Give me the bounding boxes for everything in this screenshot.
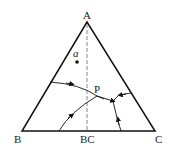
boundary-curve-bottom <box>59 96 97 131</box>
point-p-label: P <box>94 83 100 95</box>
midpoint-bc-label: BC <box>80 133 95 145</box>
boundary-curve-to-junction <box>97 96 113 101</box>
vertex-a-label: A <box>83 9 91 21</box>
boundary-curve-right <box>113 93 131 101</box>
arrow-bottom-curve <box>68 115 72 118</box>
point-a-dot <box>75 60 79 64</box>
triangle-outline <box>22 22 155 131</box>
boundary-curve-down <box>113 101 121 131</box>
arrow-down-curve <box>118 119 119 125</box>
point-a-label: a <box>73 47 79 59</box>
vertex-b-label: B <box>14 133 21 145</box>
ternary-diagram: A B C BC a P <box>0 0 172 149</box>
vertex-c-label: C <box>155 133 162 145</box>
arrow-right-curve <box>120 94 126 95</box>
